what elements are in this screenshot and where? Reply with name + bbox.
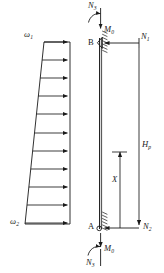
moment-label-m0-bottom: M0	[104, 244, 114, 253]
force-label-n1: N1	[141, 32, 149, 41]
engineering-figure: ω1 ω2 N3 M0 B N1 Hp X A N2 M0 N3	[0, 0, 164, 273]
force-label-n3-bottom: N3	[86, 258, 94, 267]
dimension-label-x: X	[112, 175, 117, 184]
node-label-a: A	[88, 222, 94, 231]
member-column	[100, 38, 102, 229]
moment-label-m0-top: M0	[104, 25, 114, 34]
bottom-moment-arc	[88, 246, 100, 255]
node-label-b: B	[88, 38, 94, 47]
force-label-n2: N2	[143, 222, 151, 231]
load-label-omega1: ω1	[24, 30, 33, 39]
dimension-x	[112, 152, 127, 228]
n1-force-arrow	[105, 38, 140, 48]
force-label-n3-top: N3	[88, 1, 96, 10]
load-label-omega2: ω2	[10, 217, 19, 226]
figure-vector-layer	[0, 0, 164, 273]
support-b-hatching	[102, 31, 107, 53]
load-arrow-group	[25, 42, 67, 223]
dimension-label-hp: Hp	[142, 140, 151, 149]
top-moment-arc	[89, 13, 101, 22]
